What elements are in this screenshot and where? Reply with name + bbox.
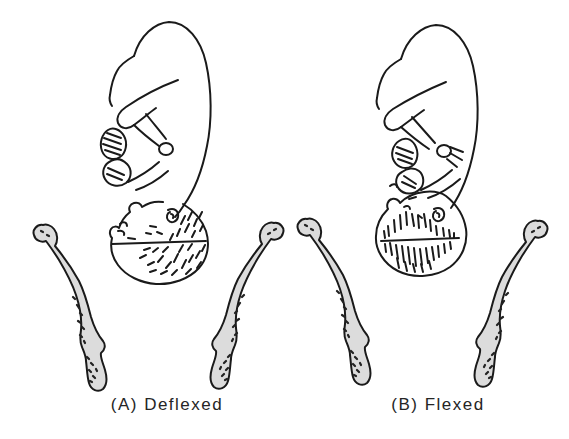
pelvic-bone-right-a <box>211 223 284 389</box>
fetus-b-fist <box>437 145 451 157</box>
medical-illustration-page: (A) Deflexed (B) Flexed <box>0 0 569 439</box>
figure-a-label: (A) Deflexed <box>60 395 274 415</box>
fetus-b-arm <box>384 82 446 130</box>
fetus-deflexed <box>101 22 211 284</box>
fetus-a-toe-lines <box>107 168 124 180</box>
fetus-flexed <box>376 25 478 276</box>
fetus-b-hair-strokes <box>384 212 454 272</box>
fetus-b-ear-icon <box>433 208 444 221</box>
fetus-a-finger-lines <box>103 133 121 155</box>
fetus-a-leg-lines <box>128 162 168 190</box>
fetus-b-rump <box>377 59 401 109</box>
fetus-a-forearm <box>134 114 166 146</box>
fetus-a-arm <box>117 80 178 128</box>
fetus-a-back <box>134 22 211 217</box>
pelvic-bone-left-a <box>34 225 107 391</box>
pelvic-bone-right-b <box>475 221 548 387</box>
fetal-position-drawing <box>0 0 569 439</box>
fetus-b-presenting-line <box>381 238 459 241</box>
pelvic-bone-left-b <box>298 219 371 385</box>
figure-b-label: (B) Flexed <box>331 395 545 415</box>
fetus-a-rump <box>110 56 134 106</box>
fetus-a-fist <box>159 143 173 155</box>
fetus-b-toe-lines <box>402 176 416 188</box>
figure-b-flexed <box>298 25 548 387</box>
figure-a-deflexed <box>34 22 284 391</box>
fetus-b-forearm <box>401 117 435 149</box>
fetus-a-face-marks <box>118 222 135 239</box>
fetus-b-finger-spread <box>447 147 463 167</box>
fetus-b-finger-lines <box>396 147 413 164</box>
